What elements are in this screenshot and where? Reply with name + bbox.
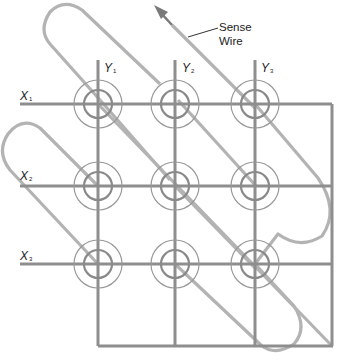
sense-wire-label: Sense Wire [219,20,252,48]
core-r2c2 [151,162,199,210]
sense-wire-arrow-icon [154,5,172,25]
core-r1c1 [74,80,122,128]
core-r1c2 [151,80,199,128]
y2-label: Y2 [182,62,194,74]
core-r1c3 [231,80,279,128]
annotation-leader [188,28,218,37]
core-memory-diagram [0,0,350,360]
core-r3c1 [74,240,122,288]
y3-label: Y3 [261,62,273,74]
sense-wire-label-line2: Wire [219,34,252,48]
cores [74,80,279,288]
core-r2c1 [74,162,122,210]
sense-wire-label-line1: Sense [219,20,252,34]
x1-label: X1 [20,90,32,102]
core-r3c2 [151,240,199,288]
core-r3c3 [231,240,279,288]
core-r2c3 [231,162,279,210]
x2-label: X2 [20,170,32,182]
x3-label: X3 [20,250,32,262]
y1-label: Y1 [104,62,116,74]
